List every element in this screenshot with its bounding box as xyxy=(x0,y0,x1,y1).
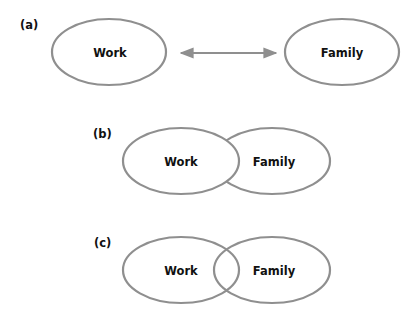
family-label-b: Family xyxy=(253,155,296,169)
panel-label-a: (a) xyxy=(20,18,38,32)
work-family-diagram: (a) Work Family (b) Work Family (c) Work… xyxy=(0,0,416,321)
family-label-a: Family xyxy=(321,46,364,60)
panel-c: (c) Work Family xyxy=(94,236,330,303)
work-label-a: Work xyxy=(93,46,127,60)
panel-b: (b) Work Family xyxy=(93,127,330,194)
panel-label-c: (c) xyxy=(94,236,111,250)
work-label-b: Work xyxy=(164,155,198,169)
panel-a: (a) Work Family xyxy=(20,18,399,85)
family-label-c: Family xyxy=(253,264,296,278)
panel-label-b: (b) xyxy=(93,127,112,141)
work-label-c: Work xyxy=(164,264,198,278)
